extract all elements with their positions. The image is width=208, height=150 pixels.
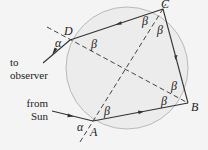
vertex-label-A: A [90, 126, 97, 138]
to-observer-label: to observer [10, 57, 48, 81]
raindrop-diagram: C D B A α β β β β β β α to observer from… [0, 0, 208, 150]
to-observer-line1: to [10, 57, 48, 68]
to-observer-line2: observer [10, 70, 48, 81]
angle-beta-B-lower: β [161, 95, 167, 107]
angle-beta-A: β [104, 105, 110, 117]
vertex-label-C: C [161, 0, 169, 10]
angle-beta-C-left: β [142, 15, 148, 27]
vertex-label-D: D [64, 25, 73, 37]
angle-beta-D: β [91, 38, 97, 50]
angle-alpha-A: α [77, 121, 83, 133]
from-sun-label: from Sun [22, 98, 48, 122]
angle-beta-C-right: β [157, 24, 163, 36]
angle-beta-B-upper: β [171, 80, 177, 92]
raindrop-circle [66, 7, 188, 129]
from-sun-line1: from [22, 98, 48, 109]
angle-alpha-D: α [55, 37, 61, 49]
from-sun-line2: Sun [22, 111, 48, 122]
vertex-label-B: B [191, 101, 198, 113]
